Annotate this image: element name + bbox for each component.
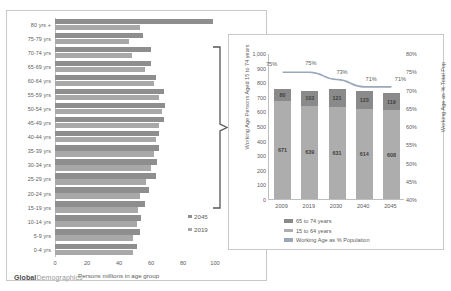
bar-2019[interactable] — [55, 235, 133, 240]
category-label: 25-29 yrs — [7, 176, 51, 182]
line-data-label: 75% — [305, 60, 316, 66]
category-label: 45-49 yrs — [7, 120, 51, 126]
category-label: 50-54 yrs — [7, 106, 51, 112]
x-tick-label: 2040 — [357, 203, 369, 209]
x-tick-label: 2030 — [330, 203, 342, 209]
right-axis-tick-label: 60% — [406, 124, 428, 130]
legend-item-working-age-pct[interactable]: Working Age as % Population — [284, 237, 370, 243]
bar-2045[interactable] — [55, 103, 165, 108]
bar-2045[interactable] — [55, 131, 159, 136]
left-chart-legend: 2045 2019 — [188, 213, 208, 239]
legend-swatch-15-64 — [284, 229, 293, 233]
left-chart-x-axis-title: Persons millions in age group — [78, 272, 258, 279]
bar-2019[interactable] — [55, 95, 159, 100]
left-chart-x-ticks: 020406080100 — [55, 260, 220, 270]
category-label: 40-44 yrs — [7, 134, 51, 140]
bar-row — [55, 159, 215, 173]
bar-2045[interactable] — [55, 173, 156, 178]
bar-2045[interactable] — [55, 215, 141, 220]
bar-2019[interactable] — [55, 221, 137, 226]
bar-2045[interactable] — [55, 117, 164, 122]
bar-2019[interactable] — [55, 179, 146, 184]
bar-2045[interactable] — [55, 61, 151, 66]
left-axis-tick-label: 100 — [244, 182, 266, 188]
working-age-stacked-chart: 1,0009008007006005004003002001000 80%75%… — [228, 34, 444, 250]
x-tick-label: 2045 — [384, 203, 396, 209]
line-data-label: 75% — [266, 61, 277, 67]
right-chart-left-axis-title: Working Age Persons Aged 15 to 74 years — [244, 22, 250, 172]
right-chart-plot-area: 67180639103631121614123608119 — [268, 54, 404, 200]
bar-row — [55, 116, 215, 130]
right-axis-tick-label: 70% — [406, 88, 428, 94]
left-axis-tick-label: 0 — [244, 197, 266, 203]
right-axis-tick-label: 75% — [406, 69, 428, 75]
right-axis-tick-label: 50% — [406, 161, 428, 167]
bar-2045[interactable] — [55, 187, 149, 192]
category-label: 55-59 yrs — [7, 92, 51, 98]
bar-2019[interactable] — [55, 137, 156, 142]
category-label: 5-9 yrs — [7, 233, 51, 239]
bar-row — [55, 187, 215, 201]
line-data-label: 73% — [336, 69, 347, 75]
bar-2019[interactable] — [55, 250, 133, 255]
x-tick-label: 20 — [84, 260, 90, 266]
legend-item-2045[interactable]: 2045 — [188, 213, 208, 220]
bar-2045[interactable] — [55, 159, 157, 164]
bar-2019[interactable] — [55, 165, 151, 170]
bar-2019[interactable] — [55, 207, 138, 212]
right-axis-tick-label: 45% — [406, 179, 428, 185]
legend-item-2019[interactable]: 2019 — [188, 226, 208, 233]
category-label: 10-14 yrs — [7, 219, 51, 225]
bar-2045[interactable] — [55, 89, 164, 94]
bar-2019[interactable] — [55, 39, 129, 44]
brand-footer: GlobalDemographics — [14, 274, 83, 281]
bar-2019[interactable] — [55, 53, 132, 58]
legend-label-working-age-pct: Working Age as % Population — [296, 237, 370, 243]
bar-2045[interactable] — [55, 145, 159, 150]
bar-2019[interactable] — [55, 109, 162, 114]
category-label: 60-64 yrs — [7, 78, 51, 84]
brand-name-light: Demographics — [36, 274, 82, 281]
category-label: 80 yrs + — [7, 22, 51, 28]
legend-item-65-74[interactable]: 65 to 74 years — [284, 218, 370, 224]
x-tick-label: 2009 — [275, 203, 287, 209]
bar-2019[interactable] — [55, 25, 140, 30]
bar-row — [55, 74, 215, 88]
bar-2045[interactable] — [55, 201, 145, 206]
bar-2019[interactable] — [55, 67, 145, 72]
bar-row — [55, 102, 215, 116]
category-label: 15-19 yrs — [7, 205, 51, 211]
bar-row — [55, 32, 215, 46]
bar-row — [55, 18, 215, 32]
right-chart-right-axis-title: Working Age as % Total Pop — [440, 22, 446, 172]
x-tick-label: 2019 — [303, 203, 315, 209]
category-label: 70-74 yrs — [7, 50, 51, 56]
legend-label-2045: 2045 — [194, 213, 208, 220]
x-tick-label: 100 — [210, 260, 219, 266]
right-chart-right-axis-ticks: 80%75%70%65%60%55%50%45%40% — [406, 54, 430, 200]
category-label: 20-24 yrs — [7, 191, 51, 197]
bar-2019[interactable] — [55, 123, 159, 128]
bar-2019[interactable] — [55, 193, 140, 198]
legend-label-65-74: 65 to 74 years — [296, 218, 331, 224]
right-axis-tick-label: 80% — [406, 51, 428, 57]
bar-row — [55, 145, 215, 159]
bar-2045[interactable] — [55, 229, 140, 234]
x-tick-label: 80 — [180, 260, 186, 266]
bar-2045[interactable] — [55, 244, 137, 249]
bar-2045[interactable] — [55, 33, 143, 38]
slide-canvas: 80 yrs +75-79 yrs70-74 yrs65-69 yrs60-64… — [0, 0, 451, 291]
bar-2019[interactable] — [55, 81, 154, 86]
category-label: 35-39 yrs — [7, 148, 51, 154]
bar-2045[interactable] — [55, 47, 151, 52]
legend-swatch-2045 — [188, 215, 192, 219]
legend-item-15-64[interactable]: 15 to 64 years — [284, 228, 370, 234]
line-data-label: 71% — [366, 76, 377, 82]
bar-2045[interactable] — [55, 75, 156, 80]
bar-2019[interactable] — [55, 151, 154, 156]
bar-row — [55, 243, 215, 257]
bar-row — [55, 60, 215, 74]
category-label: 0-4 yrs — [7, 247, 51, 253]
legend-swatch-working-age-pct — [284, 238, 293, 242]
bar-2045[interactable] — [55, 19, 213, 24]
